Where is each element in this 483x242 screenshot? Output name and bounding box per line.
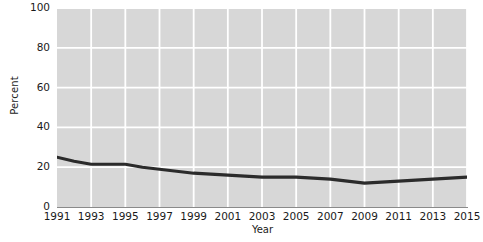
x-tick-label: 2015: [447, 211, 483, 222]
y-tick-label: 40: [16, 121, 50, 132]
plot-svg: [57, 8, 467, 207]
y-tick-label: 100: [16, 2, 50, 13]
x-axis-title-text: Year: [252, 224, 273, 235]
y-tick-label: 20: [16, 161, 50, 172]
x-axis-line: [57, 207, 468, 208]
x-axis-title: Year: [0, 224, 483, 235]
y-tick-label: 80: [16, 42, 50, 53]
plot-area: [57, 8, 467, 207]
y-tick-label: 60: [16, 82, 50, 93]
line-chart: Percent 020406080100 1991199319951997199…: [0, 0, 483, 242]
y-axis-title: Percent: [9, 66, 20, 126]
